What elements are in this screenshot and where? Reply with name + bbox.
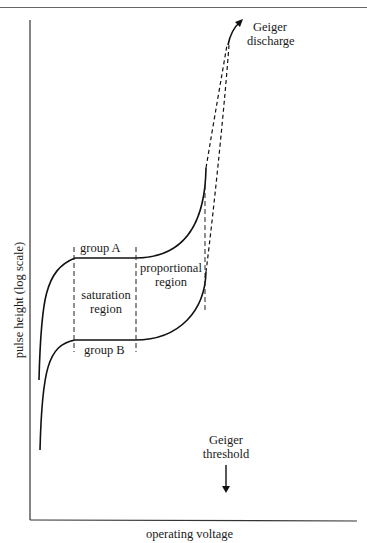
geiger-discharge-line1: Geiger — [247, 20, 295, 34]
saturation-line2: region — [78, 302, 134, 316]
geiger-discharge-arrow-line — [228, 22, 240, 45]
group-b-label: group B — [84, 343, 125, 357]
geiger-threshold-line1: Geiger — [196, 433, 256, 447]
geiger-threshold-arrowhead-icon — [222, 486, 230, 493]
proportional-region-label: proportional region — [138, 261, 204, 289]
saturation-region-label: saturation region — [78, 288, 134, 316]
geiger-threshold-label: Geiger threshold — [196, 433, 256, 461]
dashed-geiger-b — [206, 45, 229, 272]
group-a-label: group A — [80, 241, 121, 255]
saturation-line1: saturation — [78, 288, 134, 302]
proportional-line2: region — [138, 275, 204, 289]
dashed-geiger-a — [206, 45, 227, 168]
x-axis-label: operating voltage — [146, 527, 233, 541]
proportional-line1: proportional — [138, 261, 204, 275]
geiger-discharge-label: Geiger discharge — [247, 20, 295, 48]
geiger-discharge-line2: discharge — [247, 34, 295, 48]
y-axis-label: pulse height (log scale) — [12, 242, 27, 358]
geiger-threshold-line2: threshold — [196, 447, 256, 461]
x-axis — [30, 520, 357, 521]
